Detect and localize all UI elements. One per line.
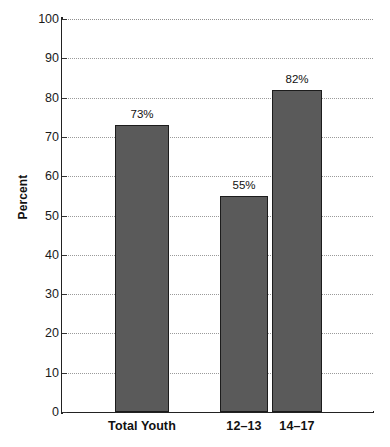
y-tick-mark — [62, 216, 67, 217]
bar-value-label: 73% — [115, 109, 169, 121]
gridline — [62, 333, 373, 334]
y-tick-label: 10 — [19, 367, 59, 380]
gridline — [62, 98, 373, 99]
y-tick-mark — [62, 373, 67, 374]
gridline — [62, 373, 373, 374]
y-tick-label: 40 — [19, 249, 59, 262]
bar — [272, 90, 322, 412]
gridline — [62, 216, 373, 217]
bar-value-label: 82% — [272, 74, 322, 86]
y-tick-label: 70 — [19, 131, 59, 144]
y-tick-mark — [62, 333, 67, 334]
gridline — [62, 58, 373, 59]
y-tick-label: 60 — [19, 170, 59, 183]
y-tick-mark — [62, 137, 67, 138]
y-tick-label: 0 — [19, 406, 59, 419]
y-tick-mark — [62, 294, 67, 295]
bar-value-label: 55% — [220, 180, 268, 192]
gridline — [62, 19, 373, 20]
y-tick-label: 30 — [19, 288, 59, 301]
bar-chart: Percent 1009080706050403020100 73%55%82%… — [0, 0, 390, 447]
y-tick-label: 20 — [19, 327, 59, 340]
bar — [115, 125, 169, 412]
y-tick-mark — [62, 176, 67, 177]
y-tick-label: 80 — [19, 92, 59, 105]
y-tick-mark — [62, 58, 67, 59]
y-tick-label: 50 — [19, 210, 59, 223]
gridline — [62, 176, 373, 177]
x-axis-label: 14–17 — [237, 419, 357, 433]
gridline — [62, 255, 373, 256]
y-tick-mark — [62, 255, 67, 256]
y-tick-label: 100 — [19, 13, 59, 26]
y-tick-mark — [62, 98, 67, 99]
y-tick-label: 90 — [19, 52, 59, 65]
y-tick-mark — [62, 19, 67, 20]
gridline — [62, 294, 373, 295]
y-tick-mark — [62, 412, 67, 413]
gridline — [62, 137, 373, 138]
plot-area — [62, 19, 373, 412]
bar — [220, 196, 268, 412]
